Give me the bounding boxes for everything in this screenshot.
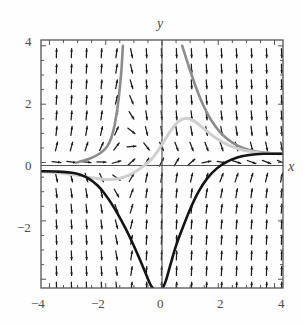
slope-arrow: [100, 235, 103, 244]
slope-arrow: [235, 282, 238, 291]
slope-arrow: [146, 173, 149, 182]
x-tick-label-4: 4: [278, 296, 285, 312]
slope-arrow: [55, 266, 58, 275]
slope-arrow: [235, 126, 238, 135]
slope-arrow: [130, 220, 133, 229]
slope-arrow: [190, 49, 193, 58]
slope-arrow: [130, 204, 133, 213]
slope-arrow: [115, 251, 118, 260]
slope-arrow: [250, 189, 253, 198]
slope-arrow: [235, 235, 238, 244]
slope-arrow: [127, 145, 136, 148]
slope-arrow: [145, 64, 148, 73]
slope-arrow: [235, 173, 238, 182]
slope-arrow: [190, 251, 193, 260]
slope-arrow: [70, 235, 73, 244]
slope-arrow: [70, 64, 73, 73]
slope-arrow: [250, 64, 253, 73]
slope-arrow: [235, 95, 238, 104]
slope-arrow: [175, 111, 178, 120]
slope-arrow: [115, 64, 118, 73]
slope-arrow: [175, 204, 178, 213]
slope-arrow: [205, 266, 208, 275]
slope-arrow: [100, 64, 103, 73]
slope-arrow: [190, 220, 193, 229]
slope-arrow: [265, 95, 268, 104]
slope-arrow: [130, 96, 134, 104]
slope-arrow: [130, 64, 133, 73]
slope-arrow: [220, 95, 223, 104]
slope-arrow: [55, 95, 58, 104]
slope-arrow: [250, 235, 253, 244]
slope-arrow: [100, 49, 103, 58]
slope-arrow: [232, 161, 241, 164]
plot-canvas: [0, 0, 303, 326]
slope-arrow: [190, 95, 193, 104]
y-tick-label--2: −2: [17, 220, 31, 236]
slope-arrow: [262, 160, 270, 164]
slope-arrow: [190, 126, 193, 135]
slope-arrow: [85, 142, 88, 151]
slope-arrow: [70, 220, 73, 229]
slope-arrow: [265, 111, 268, 120]
x-tick-label-2: 2: [217, 296, 224, 312]
slope-arrow: [145, 204, 148, 213]
slope-arrow: [220, 235, 223, 244]
slope-arrow: [100, 95, 103, 104]
slope-arrow: [145, 127, 148, 136]
slope-arrow: [205, 189, 208, 198]
slope-arrow: [235, 189, 238, 198]
slope-field-figure: y x −4 −2 0 2 4 4 2 0 −2: [0, 0, 303, 326]
slope-arrow: [266, 142, 269, 151]
slope-arrow: [175, 189, 178, 198]
slope-arrow: [265, 282, 268, 291]
slope-arrow: [70, 142, 73, 151]
slope-arrow: [205, 220, 208, 229]
slope-arrow: [250, 173, 253, 182]
slope-arrow: [115, 267, 118, 276]
slope-arrow: [145, 80, 148, 89]
x-tick-label--2: −2: [91, 296, 105, 312]
slope-arrow: [55, 282, 58, 291]
slope-arrow: [250, 95, 253, 104]
slope-arrow: [235, 266, 238, 275]
slope-arrow: [70, 80, 73, 89]
slope-arrow: [67, 161, 76, 164]
slope-arrow: [85, 235, 88, 244]
slope-arrow: [145, 111, 148, 120]
slope-arrow: [130, 282, 133, 291]
slope-arrow: [250, 204, 253, 213]
slope-arrow: [220, 80, 223, 89]
slope-arrow: [145, 220, 148, 229]
y-tick-label-4: 4: [25, 34, 32, 50]
slope-arrow: [250, 126, 253, 135]
slope-arrow: [250, 282, 253, 291]
slope-arrow: [205, 251, 208, 260]
slope-arrow: [129, 112, 134, 120]
slope-arrow: [70, 189, 73, 198]
slope-arrow: [235, 80, 238, 89]
slope-arrow: [175, 220, 178, 229]
slope-arrow: [174, 158, 179, 166]
slope-arrow: [130, 189, 134, 197]
slope-arrow: [175, 49, 178, 58]
slope-arrow: [100, 80, 103, 89]
slope-arrow: [55, 64, 58, 73]
slope-arrow: [85, 126, 88, 135]
slope-arrow: [100, 204, 103, 213]
slope-arrow: [100, 251, 103, 260]
slope-arrow: [55, 204, 58, 213]
slope-arrow: [175, 126, 178, 135]
slope-arrow: [70, 126, 73, 135]
slope-arrow: [114, 143, 120, 150]
slope-arrow: [250, 111, 253, 120]
slope-arrow: [115, 235, 118, 244]
slope-arrow: [220, 111, 223, 120]
slope-arrow: [55, 173, 58, 182]
slope-arrow: [265, 80, 268, 89]
x-tick-label-0: 0: [157, 296, 164, 312]
slope-arrow: [220, 189, 223, 198]
slope-arrow: [265, 235, 268, 244]
slope-arrow: [85, 282, 88, 291]
slope-arrow: [115, 282, 118, 291]
